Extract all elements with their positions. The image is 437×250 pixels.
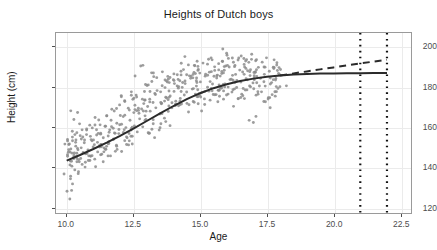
x-tick-mark (66, 214, 67, 217)
x-tick-mark (401, 214, 402, 217)
x-tick-label: 17.5 (259, 219, 276, 229)
x-tick-label: 10.0 (57, 219, 74, 229)
x-tick-label: 20.0 (326, 219, 343, 229)
chart-figure: Heights of Dutch boys 120140160180200 10… (0, 0, 437, 250)
x-tick-label: 12.5 (125, 219, 142, 229)
reference-lines-layer (56, 33, 411, 213)
x-axis-title: Age (0, 231, 437, 242)
x-tick-label: 22.5 (393, 219, 410, 229)
chart-title: Heights of Dutch boys (0, 8, 437, 20)
y-axis-title: Height (cm) (6, 71, 17, 123)
x-tick-label: 15.0 (192, 219, 209, 229)
x-tick-mark (133, 214, 134, 217)
x-tick-mark (200, 214, 201, 217)
plot-panel (55, 32, 412, 214)
x-tick-mark (334, 214, 335, 217)
x-tick-mark (267, 214, 268, 217)
